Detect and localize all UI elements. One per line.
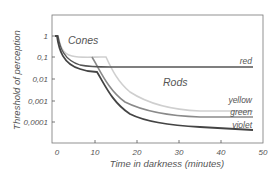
x-tick-label: 40	[217, 148, 226, 157]
label-yellow: yellow	[227, 95, 252, 105]
y-tick-label: 0,001	[28, 97, 48, 106]
x-tick-label: 10	[91, 148, 100, 157]
y-ticks	[52, 36, 55, 122]
x-tick-label: 30	[175, 148, 184, 157]
dark-adaptation-chart: 1 0,1 0,01 0,001 0,0001 0 10 20 30 40 50…	[0, 0, 276, 175]
x-tick-label: 50	[259, 148, 268, 157]
annotation-cones: Cones	[68, 34, 99, 46]
y-tick-label: 1	[44, 32, 48, 41]
x-tick-label: 20	[132, 148, 142, 157]
y-tick-label: 0,0001	[24, 118, 48, 127]
x-ticks	[95, 140, 221, 143]
x-tick-label: 0	[55, 148, 60, 157]
y-tick-labels: 1 0,1 0,01 0,001 0,0001	[24, 32, 48, 127]
label-violet: violet	[232, 120, 252, 130]
label-red: red	[240, 56, 253, 66]
y-tick-label: 0,1	[37, 53, 48, 62]
y-axis-title: Threshold of perception	[11, 30, 22, 130]
curve-violet	[55, 36, 253, 130]
curve-yellow	[56, 36, 253, 111]
x-tick-labels: 0 10 20 30 40 50	[55, 148, 268, 157]
y-tick-label: 0,01	[32, 75, 48, 84]
x-axis-title: Time in darkness (minutes)	[110, 158, 224, 169]
annotation-rods: Rods	[163, 76, 188, 88]
label-green: green	[230, 107, 252, 117]
